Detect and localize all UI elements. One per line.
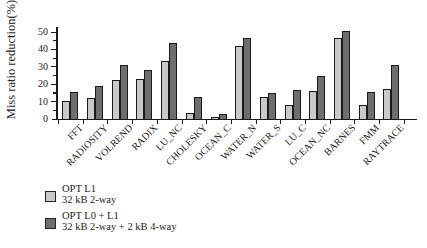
legend: OPT L1 32 kB 2-way OPT L0 + L1 32 kB 2-w… xyxy=(45,184,176,238)
y-major-tick xyxy=(51,49,57,50)
x-tick xyxy=(107,120,108,124)
y-tick-label: 0 xyxy=(26,113,48,124)
y-major-tick xyxy=(51,32,57,33)
x-tick-label: FFT xyxy=(65,122,85,142)
bar-light-fmm xyxy=(359,105,367,119)
y-tick-label: 40 xyxy=(26,43,48,54)
bar-dark-cholesky xyxy=(194,97,202,120)
x-tick xyxy=(206,120,207,124)
bar-dark-fft xyxy=(70,92,78,119)
y-tick-label: 20 xyxy=(26,78,48,89)
y-major-tick xyxy=(51,66,57,67)
x-tick xyxy=(404,120,405,124)
legend-swatch-opt-l0-l1 xyxy=(45,218,56,229)
bar-light-raytrace xyxy=(383,89,391,120)
bar-dark-lu_nc xyxy=(169,43,177,120)
bar-dark-ocean_c xyxy=(219,114,227,119)
legend-swatch-opt-l1 xyxy=(45,191,56,202)
y-tick-label: 10 xyxy=(26,96,48,107)
bar-light-radix xyxy=(136,79,144,119)
bar-dark-barnes xyxy=(342,31,350,120)
bar-dark-volrend xyxy=(120,65,128,119)
x-tick xyxy=(379,120,380,124)
x-tick xyxy=(330,120,331,124)
x-tick xyxy=(280,120,281,124)
y-minor-tick xyxy=(53,110,56,111)
legend-text-opt-l1: OPT L1 32 kB 2-way xyxy=(62,184,116,205)
y-major-tick xyxy=(51,84,57,85)
x-tick xyxy=(231,120,232,124)
legend-label-line2: 32 kB 2-way xyxy=(62,195,116,206)
bar-chart-figure: Miss ratio reduction(%) 01020304050FFTRA… xyxy=(0,0,427,248)
bar-light-lu_nc xyxy=(161,61,169,119)
legend-item-opt-l0-l1: OPT L0 + L1 32 kB 2-way + 2 kB 4-way xyxy=(45,211,176,232)
bar-dark-lu_c xyxy=(293,90,301,120)
bar-dark-radiosity xyxy=(95,86,103,119)
y-minor-tick xyxy=(53,58,56,59)
bar-light-water_n xyxy=(235,46,243,119)
bar-light-fft xyxy=(62,101,70,119)
bar-dark-water_s xyxy=(268,93,276,119)
y-minor-tick xyxy=(53,40,56,41)
x-tick xyxy=(182,120,183,124)
x-tick xyxy=(354,120,355,124)
x-tick xyxy=(157,120,158,124)
y-axis-line xyxy=(56,27,58,120)
bar-dark-ocean_nc xyxy=(317,76,325,120)
x-tick-label: RADIX xyxy=(129,122,159,152)
bar-dark-raytrace xyxy=(391,65,399,120)
y-minor-tick xyxy=(53,75,56,76)
bar-light-radiosity xyxy=(87,98,95,120)
bar-light-water_s xyxy=(260,97,268,120)
x-tick xyxy=(58,120,59,124)
legend-label-line2: 32 kB 2-way + 2 kB 4-way xyxy=(62,222,176,233)
x-tick xyxy=(305,120,306,124)
bar-light-barnes xyxy=(334,38,342,120)
x-tick xyxy=(132,120,133,124)
bar-dark-water_n xyxy=(243,38,251,120)
x-tick xyxy=(256,120,257,124)
bar-dark-radix xyxy=(144,70,152,120)
y-minor-tick xyxy=(53,92,56,93)
legend-text-opt-l0-l1: OPT L0 + L1 32 kB 2-way + 2 kB 4-way xyxy=(62,211,176,232)
legend-label-line1: OPT L0 + L1 xyxy=(62,211,176,222)
bar-light-cholesky xyxy=(186,113,194,119)
bar-light-ocean_c xyxy=(211,117,219,120)
bar-light-lu_c xyxy=(285,105,293,119)
bar-light-ocean_nc xyxy=(309,91,317,120)
x-tick xyxy=(83,120,84,124)
bar-dark-fmm xyxy=(367,92,375,120)
y-tick-label: 50 xyxy=(26,26,48,37)
y-tick-label: 30 xyxy=(26,61,48,72)
bar-light-volrend xyxy=(112,80,120,119)
legend-item-opt-l1: OPT L1 32 kB 2-way xyxy=(45,184,176,205)
y-major-tick xyxy=(51,101,57,102)
legend-label-line1: OPT L1 xyxy=(62,184,116,195)
